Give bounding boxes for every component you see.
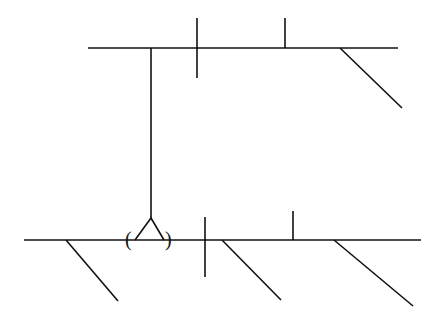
upper-clause	[88, 18, 402, 108]
sentence-diagram: ( )	[0, 0, 439, 325]
lower-modifier-line	[66, 240, 118, 301]
lower-clause	[24, 211, 421, 306]
lower-modifier-line	[334, 240, 413, 306]
lower-modifier-line	[222, 240, 281, 300]
fork-triangle	[135, 218, 164, 240]
upper-modifier-line	[340, 48, 402, 108]
